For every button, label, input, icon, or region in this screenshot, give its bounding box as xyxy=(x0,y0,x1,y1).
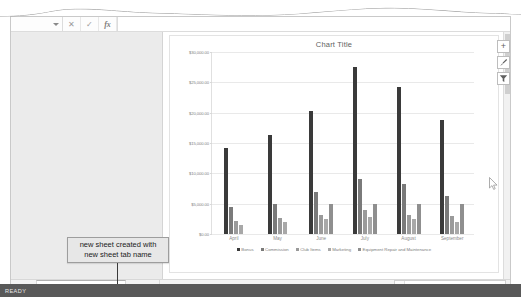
legend-swatch xyxy=(296,248,299,251)
category-label: May xyxy=(256,236,300,241)
annotation-line-2: new sheet tab name xyxy=(84,250,152,260)
chart-bar[interactable] xyxy=(324,219,328,234)
name-box[interactable] xyxy=(11,17,63,31)
confirm-formula-icon[interactable]: ✓ xyxy=(81,17,99,31)
chart-bar[interactable] xyxy=(229,207,233,234)
category-label: June xyxy=(299,236,343,241)
chart-bar[interactable] xyxy=(353,67,357,234)
bar-group xyxy=(212,52,256,234)
legend-item[interactable]: Equipment Repair and Maintenance xyxy=(358,247,431,252)
chart-container[interactable]: Chart Title $0.00$5,000.00$10,000.00$15,… xyxy=(169,35,499,273)
category-label: April xyxy=(212,236,256,241)
bar-group xyxy=(387,52,431,234)
value-axis-label: $0.00 xyxy=(199,232,209,237)
chart-bar[interactable] xyxy=(455,222,459,234)
bar-group xyxy=(343,52,387,234)
chart-bar[interactable] xyxy=(283,222,287,234)
value-axis-label: $25,000.00 xyxy=(189,80,209,85)
chart-bar[interactable] xyxy=(363,210,367,234)
chart-bar[interactable] xyxy=(239,225,243,234)
chart-bar[interactable] xyxy=(273,204,277,234)
category-axis-labels: AprilMayJuneJulyAugustSeptember xyxy=(212,236,474,241)
annotation-callout: new sheet created with new sheet tab nam… xyxy=(67,237,169,263)
bar-group xyxy=(256,52,300,234)
workbook-body: new sheet created with new sheet tab nam… xyxy=(11,32,511,279)
chart-bars[interactable] xyxy=(212,52,474,234)
legend-swatch xyxy=(237,248,240,251)
mouse-cursor-icon xyxy=(489,177,499,191)
bar-group xyxy=(430,52,474,234)
insert-function-icon[interactable]: fx xyxy=(99,17,117,31)
chart-bar[interactable] xyxy=(407,215,411,234)
chart-bar[interactable] xyxy=(417,204,421,234)
excel-window: ✕ ✓ fx new sheet created with new sheet … xyxy=(10,16,511,294)
chart-filters-button[interactable] xyxy=(497,72,510,85)
annotation-line-1: new sheet created with xyxy=(80,240,157,250)
category-label: July xyxy=(343,236,387,241)
chart-title[interactable]: Chart Title xyxy=(170,40,498,49)
chart-bar[interactable] xyxy=(402,184,406,234)
value-axis-label: $15,000.00 xyxy=(189,141,209,146)
category-label: September xyxy=(430,236,474,241)
chart-bar[interactable] xyxy=(397,87,401,234)
value-axis-tick xyxy=(210,234,212,235)
chart-plot-area: $0.00$5,000.00$10,000.00$15,000.00$20,00… xyxy=(212,52,474,234)
chart-bar[interactable] xyxy=(329,204,333,234)
formula-bar-buttons: ✕ ✓ fx xyxy=(63,17,118,31)
legend-label: Equipment Repair and Maintenance xyxy=(363,247,432,252)
legend-item[interactable]: Bonus xyxy=(237,247,254,252)
chart-bar[interactable] xyxy=(319,215,323,234)
legend-label: Marketing xyxy=(332,247,351,252)
category-label: August xyxy=(387,236,431,241)
chart-bar[interactable] xyxy=(234,221,238,234)
legend-item[interactable]: Club Items xyxy=(296,247,321,252)
chart-bar[interactable] xyxy=(412,219,416,234)
chart-bar[interactable] xyxy=(224,148,228,234)
status-bar: READY xyxy=(0,284,521,297)
legend-swatch xyxy=(358,248,361,251)
chevron-down-icon[interactable] xyxy=(53,23,59,26)
chart-legend[interactable]: BonusCommissionClub ItemsMarketingEquipm… xyxy=(170,247,498,252)
chart-bar[interactable] xyxy=(368,217,372,234)
value-axis-label: $20,000.00 xyxy=(189,110,209,115)
status-text: READY xyxy=(5,288,26,294)
brush-icon xyxy=(499,58,508,67)
legend-swatch xyxy=(328,248,331,251)
chart-bar[interactable] xyxy=(440,120,444,234)
chart-bar[interactable] xyxy=(445,196,449,234)
legend-label: Commission xyxy=(265,247,289,252)
chart-bar[interactable] xyxy=(460,204,464,234)
chart-bar[interactable] xyxy=(314,192,318,234)
chart-bar[interactable] xyxy=(450,216,454,234)
formula-bar: ✕ ✓ fx xyxy=(11,17,511,32)
chart-bar[interactable] xyxy=(358,179,362,234)
chart-bar[interactable] xyxy=(373,204,377,234)
value-axis-label: $10,000.00 xyxy=(189,171,209,176)
chart-sheet-pane: Chart Title $0.00$5,000.00$10,000.00$15,… xyxy=(163,32,511,279)
formula-input[interactable] xyxy=(118,17,511,31)
value-axis-label: $5,000.00 xyxy=(191,201,209,206)
page-root: ✕ ✓ fx new sheet created with new sheet … xyxy=(0,0,521,302)
legend-item[interactable]: Commission xyxy=(261,247,289,252)
cancel-formula-icon[interactable]: ✕ xyxy=(63,17,81,31)
value-axis-label: $30,000.00 xyxy=(189,50,209,55)
legend-label: Club Items xyxy=(300,247,321,252)
gridline xyxy=(212,234,474,235)
chart-side-buttons: + xyxy=(497,40,510,85)
chart-elements-button[interactable]: + xyxy=(497,40,510,53)
chart-bar[interactable] xyxy=(278,218,282,234)
filter-icon xyxy=(499,74,508,83)
bar-group xyxy=(299,52,343,234)
chart-styles-button[interactable] xyxy=(497,56,510,69)
torn-paper-top xyxy=(0,0,521,16)
legend-swatch xyxy=(261,248,264,251)
legend-item[interactable]: Marketing xyxy=(328,247,351,252)
chart-bar[interactable] xyxy=(309,111,313,234)
chart-bar[interactable] xyxy=(268,135,272,234)
legend-label: Bonus xyxy=(241,247,253,252)
